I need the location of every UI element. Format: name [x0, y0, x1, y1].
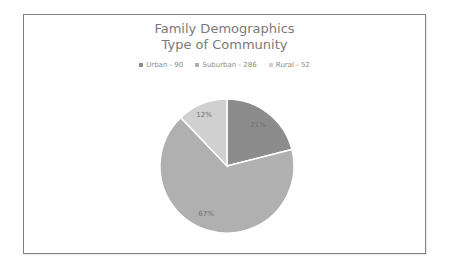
slice-label-urban: 21% [250, 121, 266, 129]
slice-label-rural: 12% [196, 111, 212, 119]
pie-chart: 21% 67% 12% [0, 0, 449, 267]
slice-label-suburban: 67% [198, 210, 214, 218]
